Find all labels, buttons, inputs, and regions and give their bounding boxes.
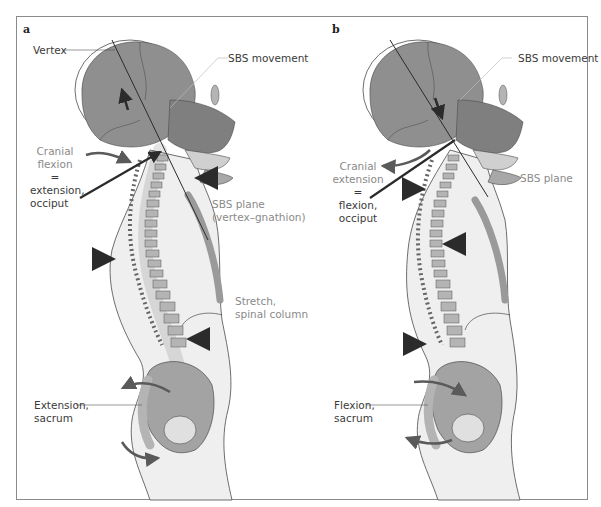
label-vertex: Vertex (33, 44, 67, 57)
label-flexion-sacrum: Flexion, sacrum (334, 399, 375, 425)
sacrum-b-line2: sacrum (334, 412, 375, 425)
label-sbs-plane-b: SBS plane (520, 172, 573, 185)
cranial-line2: flexion (30, 158, 80, 171)
label-extension-sacrum: Extension, sacrum (34, 399, 89, 425)
cranial-b-line4: occiput (330, 212, 386, 225)
sacrum-line1: Extension, (34, 399, 89, 412)
stretch-line2: spinal column (235, 308, 308, 321)
label-flexion-occiput: = flexion, occiput (330, 186, 386, 225)
label-sbs-plane-a: SBS plane (vertex–gnathion) (212, 198, 306, 224)
panel-a-letter: a (23, 23, 30, 36)
stretch-line1: Stretch, (235, 295, 308, 308)
sacrum-line2: sacrum (34, 412, 89, 425)
sacrum-b-line1: Flexion, (334, 399, 375, 412)
cranial-line3: extension, (30, 184, 80, 197)
label-cranial-extension: Cranial extension (330, 160, 386, 186)
panel-b-illustration (363, 40, 523, 500)
cranial-line4: occiput (30, 197, 80, 210)
label-sbs-movement-a: SBS movement (228, 52, 308, 65)
label-cranial-extension-occiput: = extension, occiput (30, 171, 80, 210)
cranial-b-line1: Cranial (330, 160, 386, 173)
sbs-plane-line1: SBS plane (212, 198, 306, 211)
label-cranial-flexion: Cranial flexion (30, 145, 80, 171)
cranial-line1: Cranial (30, 145, 80, 158)
panel-b-letter: b (332, 23, 340, 36)
panel-a-illustration (62, 40, 235, 500)
label-sbs-movement-b: SBS movement (518, 52, 598, 65)
cranial-eq: = (30, 171, 80, 184)
cranial-b-line3: flexion, (330, 199, 386, 212)
sbs-plane-line2: (vertex–gnathion) (212, 211, 306, 224)
cranial-b-eq: = (330, 186, 386, 199)
label-stretch-spinal-column: Stretch, spinal column (235, 295, 308, 321)
anatomy-illustration (0, 0, 601, 507)
cranial-b-line2: extension (330, 173, 386, 186)
